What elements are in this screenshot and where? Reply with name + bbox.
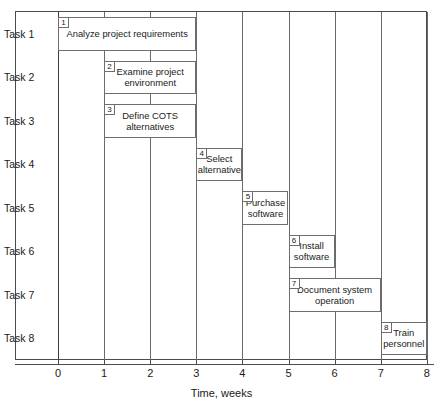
task-row-label-5: Task 5 bbox=[4, 203, 44, 214]
task-bar-3[interactable]: 3Define COTS alternatives bbox=[104, 104, 196, 138]
task-row-label-3: Task 3 bbox=[4, 116, 44, 127]
gridline-week-7 bbox=[381, 12, 382, 360]
task-number-badge-2: 2 bbox=[104, 61, 115, 72]
task-number-badge-7: 7 bbox=[289, 278, 300, 289]
task-bar-label-3: Define COTS alternatives bbox=[105, 110, 195, 132]
task-row-label-8: Task 8 bbox=[4, 333, 44, 344]
x-tick-1 bbox=[104, 360, 105, 365]
task-bar-label-2: Examine project environment bbox=[105, 66, 195, 88]
task-row-label-4: Task 4 bbox=[4, 159, 44, 170]
task-bar-4[interactable]: 4Select alternative bbox=[196, 148, 242, 182]
task-number-badge-6: 6 bbox=[289, 235, 300, 246]
task-number-badge-5: 5 bbox=[242, 191, 253, 202]
task-row-label-2: Task 2 bbox=[4, 72, 44, 83]
task-number-badge-4: 4 bbox=[196, 148, 207, 159]
x-tick-label-0: 0 bbox=[46, 367, 70, 379]
task-number-badge-1: 1 bbox=[58, 17, 69, 28]
task-bar-1[interactable]: 1Analyze project requirements bbox=[58, 17, 196, 51]
x-tick-label-7: 7 bbox=[369, 367, 393, 379]
x-tick-0 bbox=[58, 360, 59, 365]
task-bar-5[interactable]: 5Purchase software bbox=[242, 191, 288, 225]
x-tick-4 bbox=[242, 360, 243, 365]
x-tick-3 bbox=[196, 360, 197, 365]
task-row-label-1: Task 1 bbox=[4, 29, 44, 40]
x-tick-2 bbox=[150, 360, 151, 365]
gantt-chart: Task 1Task 2Task 3Task 4Task 5Task 6Task… bbox=[0, 0, 443, 411]
gridline-week-4 bbox=[242, 12, 243, 360]
task-number-badge-8: 8 bbox=[381, 322, 392, 333]
task-bar-7[interactable]: 7Document system operation bbox=[289, 278, 381, 312]
task-row-label-6: Task 6 bbox=[4, 246, 44, 257]
x-tick-7 bbox=[381, 360, 382, 365]
task-bar-8[interactable]: 8Train personnel bbox=[381, 322, 427, 356]
task-bar-label-1: Analyze project requirements bbox=[59, 28, 195, 39]
task-bar-label-7: Document system operation bbox=[290, 284, 380, 306]
x-axis-title: Time, weeks bbox=[0, 387, 443, 399]
x-tick-label-4: 4 bbox=[230, 367, 254, 379]
x-tick-label-2: 2 bbox=[138, 367, 162, 379]
x-axis-line bbox=[15, 364, 434, 365]
gridline-week-0 bbox=[58, 12, 59, 360]
x-tick-6 bbox=[335, 360, 336, 365]
task-number-badge-3: 3 bbox=[104, 104, 115, 115]
x-tick-label-1: 1 bbox=[92, 367, 116, 379]
gridline-week-8 bbox=[427, 12, 428, 360]
x-tick-5 bbox=[289, 360, 290, 365]
gridline-week-3 bbox=[196, 12, 197, 360]
x-tick-8 bbox=[427, 360, 428, 365]
task-bar-2[interactable]: 2Examine project environment bbox=[104, 61, 196, 95]
x-tick-label-5: 5 bbox=[277, 367, 301, 379]
task-bar-6[interactable]: 6Install software bbox=[289, 235, 335, 269]
x-tick-label-6: 6 bbox=[323, 367, 347, 379]
x-tick-label-3: 3 bbox=[184, 367, 208, 379]
x-tick-label-8: 8 bbox=[415, 367, 439, 379]
task-row-label-7: Task 7 bbox=[4, 290, 44, 301]
